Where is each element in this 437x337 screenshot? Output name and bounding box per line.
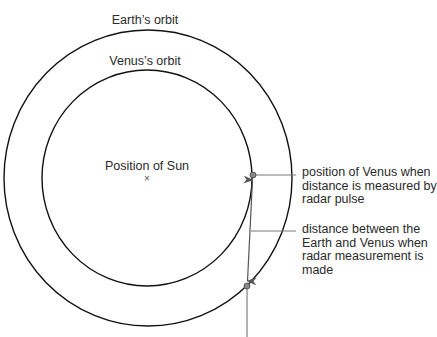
- distance-line-1: distance between the: [302, 223, 428, 237]
- earth-position-point: [244, 283, 250, 289]
- venus-position-line-3: radar pulse: [302, 193, 437, 207]
- distance-line-4: made: [302, 264, 428, 278]
- distance-line-2: Earth and Venus when: [302, 237, 428, 251]
- earth-orbit-label: Earth’s orbit: [112, 14, 178, 28]
- distance-label: distance between the Earth and Venus whe…: [302, 223, 428, 277]
- venus-position-point: [250, 172, 256, 178]
- venus-orbit-label: Venus’s orbit: [109, 55, 180, 69]
- venus-position-line-2: distance is measured by: [302, 180, 437, 194]
- sun-marker-icon: ×: [144, 172, 150, 186]
- venus-position-label: position of Venus when distance is measu…: [302, 166, 437, 207]
- distance-line-3: radar measurement is: [302, 250, 428, 264]
- venus-position-line-1: position of Venus when: [302, 166, 437, 180]
